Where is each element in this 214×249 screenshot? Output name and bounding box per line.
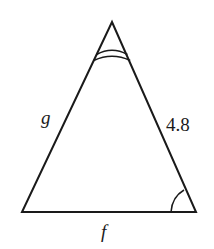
triangle-diagram: g 4.8 f <box>0 0 214 249</box>
apex-angle-arc-outer <box>97 50 128 54</box>
bottom-right-angle-arc <box>171 190 184 212</box>
apex-angle-arc-inner <box>94 56 130 60</box>
side-label-g: g <box>41 107 51 128</box>
side-label-f: f <box>101 221 109 242</box>
side-label-4-8: 4.8 <box>166 114 190 135</box>
